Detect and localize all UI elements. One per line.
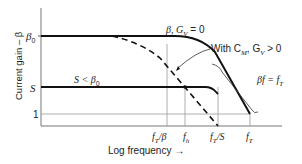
slope-bracket bbox=[212, 64, 258, 113]
y-tick-beta0: β0 bbox=[25, 30, 35, 44]
curve-s-level bbox=[41, 87, 218, 94]
x-tick-ft-beta: fT/β bbox=[152, 131, 166, 145]
x-tick-ft-s: fT/S bbox=[210, 131, 224, 145]
diagram-figure: β0 S 1 Current gain – β β, GV = 0 With C… bbox=[0, 0, 302, 164]
x-tick-ft: fT bbox=[246, 131, 254, 145]
label-slope: βf = fT bbox=[256, 74, 284, 88]
x-tick-fh: fh bbox=[183, 131, 190, 145]
y-tick-s: S bbox=[30, 82, 36, 94]
y-axis-label: Current gain – β bbox=[13, 31, 24, 100]
y-tick-one: 1 bbox=[33, 109, 39, 120]
leader-line bbox=[178, 49, 210, 68]
x-axis-label: Log frequency→ bbox=[108, 145, 184, 156]
intersection-fh-dot bbox=[183, 85, 187, 89]
curve-with-cm-gv bbox=[112, 36, 218, 126]
label-s-less-beta0: S < β0 bbox=[74, 74, 100, 87]
label-with-cm-gv: With CM, GV > 0 bbox=[211, 43, 282, 57]
